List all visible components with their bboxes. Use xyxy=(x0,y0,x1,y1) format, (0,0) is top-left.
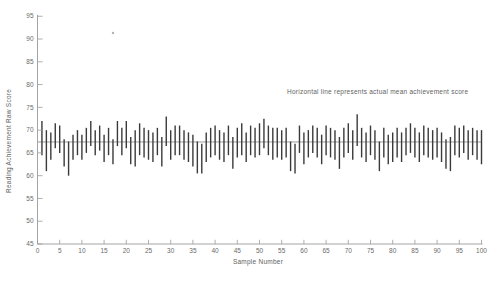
confidence-interval-figure: 0510152025303540455055606570758085909510… xyxy=(0,0,498,283)
y-tick-label: 50 xyxy=(26,217,34,224)
x-tick-label: 55 xyxy=(278,247,286,254)
x-tick-label: 80 xyxy=(389,247,397,254)
x-tick-label: 60 xyxy=(300,247,308,254)
x-tick-label: 20 xyxy=(123,247,131,254)
y-tick-label: 90 xyxy=(26,35,34,42)
y-tick-label: 70 xyxy=(26,126,34,133)
y-tick-label: 45 xyxy=(26,240,34,247)
x-tick-label: 25 xyxy=(145,247,153,254)
x-tick-label: 75 xyxy=(367,247,375,254)
x-tick-label: 45 xyxy=(234,247,242,254)
chart-canvas: 0510152025303540455055606570758085909510… xyxy=(0,0,498,283)
y-tick-label: 55 xyxy=(26,195,34,202)
y-tick-label: 60 xyxy=(26,172,34,179)
x-tick-label: 85 xyxy=(411,247,419,254)
x-tick-label: 100 xyxy=(476,247,487,254)
x-tick-label: 95 xyxy=(456,247,464,254)
x-axis-title: Sample Number xyxy=(233,259,283,266)
y-tick-label: 95 xyxy=(26,12,34,19)
x-tick-label: 5 xyxy=(58,247,62,254)
scan-artifact-dot xyxy=(112,32,114,34)
x-tick-label: 65 xyxy=(322,247,330,254)
x-tick-label: 30 xyxy=(167,247,175,254)
y-tick-label: 85 xyxy=(26,58,34,65)
y-axis-title: Reading Achievement Raw Score xyxy=(6,89,13,193)
x-tick-label: 70 xyxy=(345,247,353,254)
y-tick-label: 65 xyxy=(26,149,34,156)
x-tick-label: 40 xyxy=(211,247,219,254)
x-tick-label: 35 xyxy=(189,247,197,254)
x-tick-label: 10 xyxy=(78,247,86,254)
y-tick-label: 75 xyxy=(26,104,34,111)
mean-line-annotation: Horizontal line represents actual mean a… xyxy=(287,89,468,96)
x-tick-label: 50 xyxy=(256,247,264,254)
x-tick-label: 90 xyxy=(433,247,441,254)
y-tick-label: 80 xyxy=(26,81,34,88)
x-tick-label: 15 xyxy=(100,247,108,254)
x-tick-label: 0 xyxy=(36,247,40,254)
